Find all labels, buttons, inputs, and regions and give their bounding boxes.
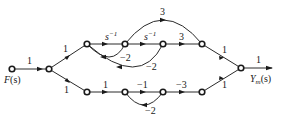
node (84, 41, 90, 47)
edge-lower-feedback (125, 92, 163, 105)
gain-lower-output: 1 (222, 79, 227, 90)
node (84, 89, 90, 95)
arrow-icon (160, 18, 166, 22)
gain-labels: 1 1 1 s−1 s−1 3 3 −2 −2 1 1 −1 −3 −2 1 1 (27, 6, 261, 116)
output-label: Ym(s) (250, 73, 271, 86)
gain-output: 1 (256, 54, 261, 65)
node (160, 89, 166, 95)
gain-upper-s2: s−1 (144, 30, 156, 42)
arrow-icon (179, 90, 185, 94)
node-output (238, 65, 244, 71)
node (199, 41, 205, 47)
edge-upper-arc-3 (125, 20, 202, 44)
gain-feedback-inner: −2 (120, 52, 131, 63)
arrow-icon (37, 67, 43, 71)
signal-flow-graph: 1 1 1 s−1 s−1 3 3 −2 −2 1 1 −1 −3 −2 1 1… (0, 0, 283, 127)
arrow-icon (102, 42, 108, 46)
gain-upper-output: 1 (222, 44, 227, 55)
arrow-icon (140, 90, 146, 94)
gain-upper-s1: s−1 (105, 30, 117, 42)
arrow-icon (65, 55, 71, 60)
gain-arc-3: 3 (160, 6, 165, 17)
node (122, 41, 128, 47)
gain-lower-branch: 1 (64, 84, 69, 95)
gain-lower-feedback: −2 (145, 105, 156, 116)
arrow-icon (266, 66, 273, 70)
gain-upper-3: 3 (179, 31, 184, 42)
gain-input: 1 (27, 55, 32, 66)
arrow-icon (140, 42, 146, 46)
nodes (9, 41, 244, 95)
gain-lower-1: 1 (103, 79, 108, 90)
gain-feedback-outer: −2 (146, 61, 157, 72)
input-label: F(s) (3, 74, 21, 86)
arrow-icon (102, 90, 108, 94)
node-input (9, 66, 15, 72)
node (160, 41, 166, 47)
gain-upper-branch: 1 (63, 43, 68, 54)
arrow-icon (179, 42, 185, 46)
node (46, 66, 52, 72)
node (199, 89, 205, 95)
gain-lower-neg1: −1 (137, 79, 148, 90)
arrow-icon (116, 65, 122, 69)
gain-lower-neg3: −3 (176, 79, 187, 90)
node (122, 89, 128, 95)
